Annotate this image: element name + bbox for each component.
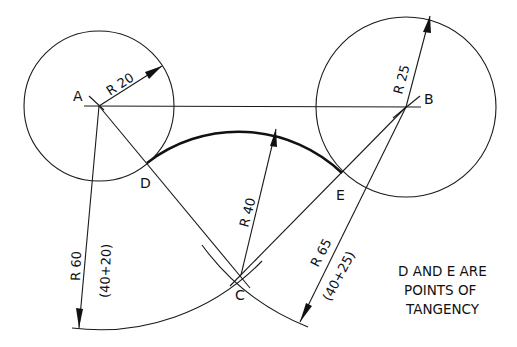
dim-r60: R 60 [68, 251, 84, 281]
r65-arrowhead [300, 303, 312, 322]
r65-construction-arc [202, 245, 308, 327]
r40-arrowhead [270, 129, 277, 147]
r60-leader [79, 106, 99, 328]
dim-r20: R 20 [103, 70, 136, 99]
r65-leader [300, 107, 406, 322]
label-c: C [235, 287, 245, 303]
label-b: B [424, 91, 434, 107]
tangent-arc-construction-drawing: A B C D E R 20 R 25 R 40 R 60 (40+20) R … [0, 0, 517, 347]
r20-arrowhead [145, 66, 162, 79]
center-mark-a [89, 96, 104, 110]
label-e: E [336, 187, 345, 203]
dim-r65: R 65 [307, 236, 334, 269]
note-line-2: POINTS OF [404, 282, 476, 298]
note-line-3: TANGENCY [405, 301, 480, 317]
r60-arrowhead [76, 308, 83, 328]
dim-r40: R 40 [236, 196, 258, 229]
label-d: D [140, 175, 151, 191]
dim-r60-sum: (40+20) [97, 243, 114, 298]
tangent-arc-de [147, 132, 342, 173]
center-line-ab [84, 106, 421, 107]
note-line-1: D AND E ARE [398, 263, 487, 279]
label-a: A [73, 88, 83, 104]
dim-r25: R 25 [390, 63, 412, 96]
